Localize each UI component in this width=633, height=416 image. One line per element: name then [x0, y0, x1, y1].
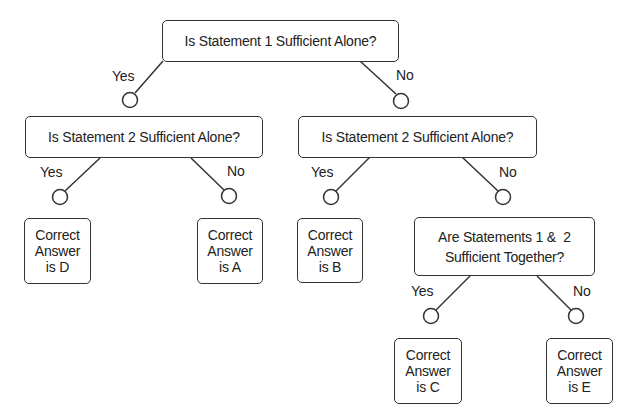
answer-c-line1: Correct — [406, 347, 451, 363]
edge-leftq2-no — [191, 158, 224, 190]
edge-rightq2-no — [462, 157, 498, 191]
branch-node-rightq2-no — [496, 190, 511, 205]
root-question-box: Is Statement 1 Sufficient Alone? — [162, 20, 399, 62]
right-statement2-question-box: Is Statement 2 Sufficient Alone? — [298, 116, 537, 158]
right-statement2-question-text: Is Statement 2 Sufficient Alone? — [322, 129, 514, 146]
connector-lines — [0, 0, 633, 416]
together-question-line2: Sufficient Together? — [445, 247, 564, 267]
answer-b-line2: Answer — [307, 243, 352, 259]
root-no-label: No — [396, 67, 414, 83]
branch-node-root-yes — [123, 93, 138, 108]
right-q2-yes-label: Yes — [311, 164, 333, 180]
answer-e-line3: is E — [568, 379, 591, 395]
answer-d-line1: Correct — [35, 227, 80, 243]
together-yes-label: Yes — [411, 283, 433, 299]
answer-b-box: Correct Answer is B — [297, 218, 363, 283]
edge-rightq2-yes — [336, 157, 370, 191]
edge-root-yes — [135, 61, 163, 93]
answer-a-line2: Answer — [207, 243, 252, 259]
edge-root-no — [360, 61, 396, 94]
answer-c-line2: Answer — [405, 363, 450, 379]
decision-tree-diagram: Is Statement 1 Sufficient Alone? Yes No … — [0, 0, 633, 416]
branch-node-root-no — [394, 94, 409, 109]
together-question-box: Are Statements 1 & 2 Sufficient Together… — [414, 217, 595, 276]
left-q2-yes-label: Yes — [40, 164, 62, 180]
branch-node-leftq2-no — [222, 189, 237, 204]
answer-d-box: Correct Answer is D — [24, 218, 91, 284]
edge-together-yes — [436, 276, 470, 310]
right-q2-no-label: No — [499, 164, 517, 180]
edge-together-no — [537, 276, 571, 310]
answer-c-line3: is C — [416, 379, 439, 395]
answer-b-line1: Correct — [308, 227, 353, 243]
answer-a-line1: Correct — [208, 227, 253, 243]
answer-e-line2: Answer — [557, 363, 602, 379]
left-statement2-question-text: Is Statement 2 Sufficient Alone? — [48, 129, 240, 146]
left-q2-no-label: No — [227, 163, 245, 179]
edge-leftq2-yes — [65, 158, 100, 191]
answer-a-line3: is A — [219, 259, 241, 275]
answer-e-line1: Correct — [557, 347, 602, 363]
answer-d-line3: is D — [46, 259, 69, 275]
branch-node-together-no — [569, 309, 584, 324]
left-statement2-question-box: Is Statement 2 Sufficient Alone? — [25, 116, 263, 158]
answer-a-box: Correct Answer is A — [197, 218, 263, 284]
branch-node-rightq2-yes — [324, 190, 339, 205]
root-yes-label: Yes — [112, 68, 134, 84]
branch-node-leftq2-yes — [53, 190, 68, 205]
answer-e-box: Correct Answer is E — [546, 338, 613, 404]
together-no-label: No — [573, 283, 591, 299]
answer-c-box: Correct Answer is C — [394, 338, 462, 404]
root-question-text: Is Statement 1 Sufficient Alone? — [185, 33, 377, 50]
branch-node-together-yes — [424, 309, 439, 324]
answer-b-line3: is B — [319, 259, 342, 275]
answer-d-line2: Answer — [35, 243, 80, 259]
together-question-line1: Are Statements 1 & 2 — [438, 227, 571, 247]
